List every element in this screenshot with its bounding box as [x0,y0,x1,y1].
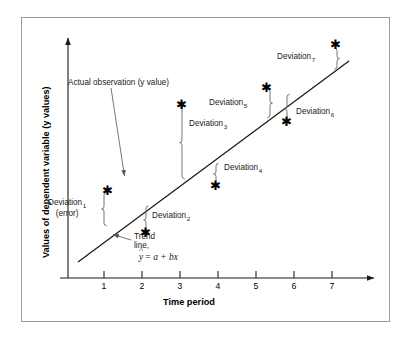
data-point-marker: ✱ [102,184,113,195]
deviation-5-label: Deviation5 [209,98,247,109]
deviation-2-subscript: 2 [186,215,190,222]
deviation-7-subscript: 7 [311,56,315,63]
actual-observation-label: Actual observation (y value) [68,78,169,87]
x-tick-label: 1 [98,281,110,291]
deviation-6-subscript: 6 [330,111,334,118]
deviation-6-text: Deviation [296,107,330,116]
x-axis-title: Time period [163,297,215,307]
data-point-marker: ✱ [210,179,221,190]
trend-line-leader [113,235,131,241]
actual-observation-text: Actual observation (y value) [68,78,169,87]
x-tick-label: 2 [136,281,148,291]
data-point-marker: ✱ [261,81,272,92]
deviation-bracket-3 [180,106,185,179]
y-axis-title: Values of dependent variable (y values) [41,86,51,258]
deviation-1-note: (error) [56,209,79,218]
x-tick-label: 3 [174,281,186,291]
trend-line [78,61,349,262]
trend-line-equation: y= a + bx [139,252,178,262]
deviation-7-text: Deviation [277,52,311,61]
deviation-1-subscript: 1 [82,202,86,209]
plot-vector-layer [0,0,412,342]
data-point-marker: ✱ [176,98,187,109]
deviation-4-subscript: 4 [258,167,262,174]
trend-line-label: Trend line, [134,232,155,251]
deviation-3-label: Deviation3 [189,119,227,130]
x-tick-label: 5 [250,281,262,291]
actual-observation-leader [111,88,125,176]
deviation-2-text: Deviation [152,211,186,220]
deviation-1-label: Deviation1 (error) [48,198,86,218]
deviation-4-label: Deviation4 [224,163,262,174]
trend-line-text-line1: Trend [134,232,155,241]
deviation-2-label: Deviation2 [152,211,190,222]
deviation-3-text: Deviation [189,119,223,128]
deviation-1-text: Deviation [48,198,82,207]
deviation-5-subscript: 5 [243,102,247,109]
x-tick-label: 7 [326,281,338,291]
data-point-marker: ✱ [281,115,292,126]
y-hat-symbol: y [139,252,143,262]
deviation-3-subscript: 3 [223,123,227,130]
x-axis [60,271,374,278]
x-tick-label: 6 [288,281,300,291]
figure-container: ✱ ✱ ✱ ✱ ✱ ✱ ✱ Values of dependent variab… [0,0,412,342]
x-tick-label: 4 [212,281,224,291]
deviation-5-text: Deviation [209,98,243,107]
deviation-4-text: Deviation [224,163,258,172]
deviation-7-label: Deviation7 [277,52,315,63]
data-point-marker: ✱ [330,38,341,49]
deviation-6-label: Deviation6 [296,107,334,118]
equation-rhs: = a + bx [143,252,178,262]
deviation-brackets [102,48,340,235]
x-axis-ticks [104,271,332,278]
